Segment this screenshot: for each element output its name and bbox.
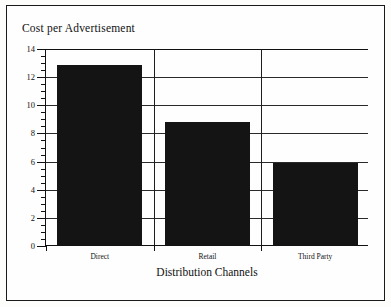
y-tick-minor-2.5 <box>41 211 46 212</box>
bar-direct <box>57 65 142 245</box>
y-axis-label-4: 4 <box>15 185 35 195</box>
y-axis-label-2: 2 <box>15 213 35 223</box>
y-tick-major-14 <box>37 49 46 50</box>
x-axis-label-retail: Retail <box>199 252 217 261</box>
bar-third-party <box>273 163 358 245</box>
y-tick-minor-1.5 <box>41 225 46 226</box>
y-tick-major-0 <box>37 246 46 247</box>
y-axis-label-0: 0 <box>15 241 35 251</box>
y-tick-minor-6.5 <box>41 155 46 156</box>
x-tick-2 <box>261 245 262 251</box>
y-tick-minor-1 <box>41 232 46 233</box>
y-tick-minor-7.5 <box>41 140 46 141</box>
y-tick-major-4 <box>37 190 46 191</box>
y-tick-minor-5 <box>41 176 46 177</box>
y-tick-major-6 <box>37 162 46 163</box>
y-tick-major-8 <box>37 133 46 134</box>
y-tick-minor-10.5 <box>41 98 46 99</box>
x-axis-label-direct: Direct <box>90 252 109 261</box>
chart-figure: Cost per Advertisement Distribution Chan… <box>0 0 391 307</box>
x-tick-1 <box>154 245 155 251</box>
y-tick-major-2 <box>37 218 46 219</box>
category-divider-1 <box>154 49 155 245</box>
y-tick-minor-13 <box>41 63 46 64</box>
plot-top-border <box>46 49 368 50</box>
y-tick-minor-9.5 <box>41 112 46 113</box>
y-tick-minor-12.5 <box>41 70 46 71</box>
y-tick-minor-11 <box>41 91 46 92</box>
y-tick-minor-9 <box>41 119 46 120</box>
x-tick-0 <box>46 245 47 251</box>
y-tick-minor-0.5 <box>41 239 46 240</box>
y-tick-minor-3 <box>41 204 46 205</box>
y-axis-label-6: 6 <box>15 157 35 167</box>
chart-title: Cost per Advertisement <box>22 22 135 34</box>
y-tick-minor-8.5 <box>41 126 46 127</box>
plot-area: Distribution Channels 02468101214DirectR… <box>45 49 368 246</box>
y-tick-major-10 <box>37 105 46 106</box>
y-tick-minor-7 <box>41 148 46 149</box>
category-divider-2 <box>261 49 262 245</box>
y-axis-label-10: 10 <box>15 100 35 110</box>
y-tick-minor-11.5 <box>41 84 46 85</box>
bar-retail <box>165 122 250 245</box>
x-axis-label-third-party: Third Party <box>298 252 332 261</box>
y-tick-minor-4.5 <box>41 183 46 184</box>
y-tick-minor-13.5 <box>41 56 46 57</box>
x-axis-title: Distribution Channels <box>46 266 368 278</box>
y-axis-label-12: 12 <box>15 72 35 82</box>
y-axis-label-8: 8 <box>15 128 35 138</box>
y-tick-minor-3.5 <box>41 197 46 198</box>
y-tick-minor-5.5 <box>41 169 46 170</box>
y-axis-label-14: 14 <box>15 44 35 54</box>
y-tick-major-12 <box>37 77 46 78</box>
